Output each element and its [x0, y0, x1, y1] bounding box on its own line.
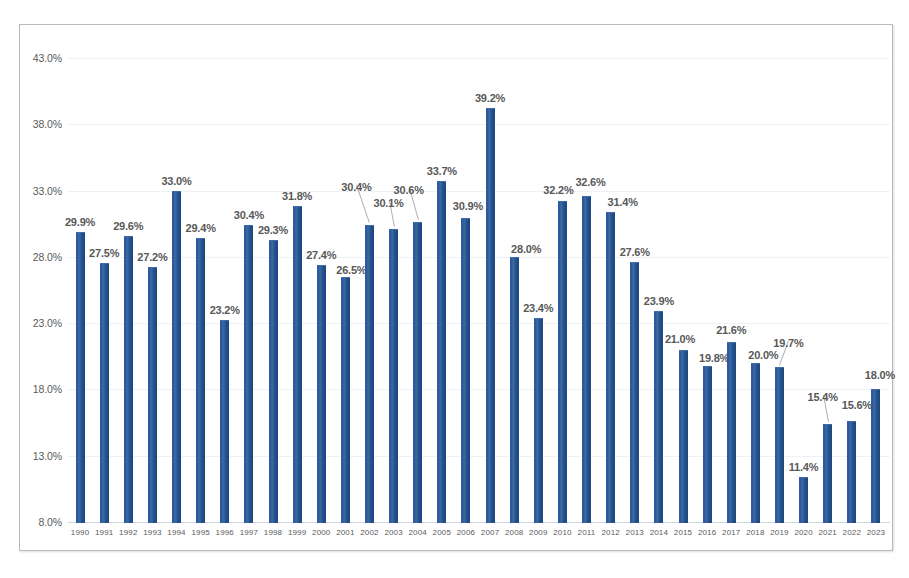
- x-axis-tick-label: 1998: [264, 528, 282, 537]
- bar[interactable]: [76, 232, 85, 523]
- bar-value-label: 19.8%: [699, 352, 729, 364]
- bar[interactable]: [654, 311, 663, 523]
- bar-value-label: 19.7%: [773, 337, 803, 349]
- y-axis-tick-label: 13.0%: [20, 450, 62, 462]
- bar[interactable]: [317, 265, 326, 523]
- gridline: [68, 456, 890, 457]
- x-axis-tick-label: 1993: [143, 528, 161, 537]
- x-axis-tick-label: 2018: [746, 528, 764, 537]
- x-axis-tick-label: 2014: [650, 528, 668, 537]
- bar[interactable]: [799, 477, 808, 523]
- bar[interactable]: [269, 240, 278, 523]
- bar-value-label: 30.1%: [373, 197, 403, 209]
- bar[interactable]: [775, 367, 784, 523]
- bar[interactable]: [823, 424, 832, 523]
- x-axis-tick-label: 2015: [674, 528, 692, 537]
- x-axis-tick-label: 2005: [433, 528, 451, 537]
- bar-value-label: 30.4%: [341, 181, 371, 193]
- bar-value-label: 33.0%: [161, 175, 191, 187]
- x-axis-tick-label: 2000: [312, 528, 330, 537]
- x-axis-tick-label: 1991: [95, 528, 113, 537]
- x-axis-tick-label: 2023: [867, 528, 885, 537]
- y-axis-tick-label: 38.0%: [20, 118, 62, 130]
- x-axis-tick-label: 2003: [384, 528, 402, 537]
- bar-value-label: 23.4%: [523, 302, 553, 314]
- gridline: [68, 257, 890, 258]
- bar[interactable]: [486, 108, 495, 523]
- bar[interactable]: [196, 238, 205, 523]
- bar[interactable]: [293, 206, 302, 523]
- bar[interactable]: [124, 236, 133, 523]
- bar[interactable]: [751, 363, 760, 523]
- gridline: [68, 389, 890, 390]
- gridline: [68, 58, 890, 59]
- x-axis-tick-label: 2020: [794, 528, 812, 537]
- x-axis-tick-label: 1995: [191, 528, 209, 537]
- bar-value-label: 21.0%: [665, 333, 695, 345]
- bar[interactable]: [148, 267, 157, 523]
- x-axis-tick-label: 2013: [626, 528, 644, 537]
- x-axis-tick-label: 2010: [553, 528, 571, 537]
- bar[interactable]: [172, 191, 181, 523]
- bar[interactable]: [558, 201, 567, 523]
- bar[interactable]: [220, 320, 229, 523]
- gridline: [68, 191, 890, 192]
- plot-area: 43.0%38.0%33.0%28.0%23.0%18.0%13.0%8.0%2…: [20, 25, 892, 550]
- bar-value-label: 31.4%: [608, 196, 638, 208]
- bar-value-label: 28.0%: [511, 243, 541, 255]
- bar-value-label: 29.3%: [258, 224, 288, 236]
- bar-value-label: 27.6%: [620, 246, 650, 258]
- bar[interactable]: [341, 277, 350, 523]
- bar-value-label: 39.2%: [475, 92, 505, 104]
- bar-value-label: 18.0%: [865, 369, 895, 381]
- bar-value-label: 27.4%: [306, 249, 336, 261]
- bar[interactable]: [461, 218, 470, 523]
- bar-value-label: 29.9%: [65, 216, 95, 228]
- x-axis-tick-label: 2006: [457, 528, 475, 537]
- bar-value-label: 23.2%: [210, 304, 240, 316]
- bar-value-label: 15.4%: [808, 391, 838, 403]
- bar[interactable]: [244, 225, 253, 523]
- gridline: [68, 124, 890, 125]
- x-axis-tick-label: 2022: [843, 528, 861, 537]
- bar[interactable]: [606, 212, 615, 523]
- bar-value-label: 31.8%: [282, 190, 312, 202]
- bar-value-label: 20.0%: [748, 349, 778, 361]
- bar[interactable]: [727, 342, 736, 523]
- y-axis-tick-label: 8.0%: [20, 516, 62, 528]
- bar[interactable]: [582, 196, 591, 523]
- bar-value-label: 15.6%: [842, 399, 872, 411]
- bar-value-label: 27.2%: [137, 251, 167, 263]
- bar-value-label: 23.9%: [644, 295, 674, 307]
- bar[interactable]: [630, 262, 639, 523]
- bar[interactable]: [389, 229, 398, 523]
- x-axis-tick-label: 2019: [770, 528, 788, 537]
- x-axis-tick-label: 2001: [336, 528, 354, 537]
- x-axis-tick-label: 2017: [722, 528, 740, 537]
- bar[interactable]: [510, 257, 519, 523]
- bar[interactable]: [679, 350, 688, 523]
- x-axis-tick-label: 2011: [578, 528, 596, 537]
- x-axis-tick-label: 1996: [216, 528, 234, 537]
- bar[interactable]: [437, 181, 446, 523]
- x-axis-tick-label: 2004: [409, 528, 427, 537]
- bar-value-label: 30.4%: [234, 209, 264, 221]
- bar[interactable]: [871, 389, 880, 523]
- bar[interactable]: [365, 225, 374, 523]
- bar[interactable]: [847, 421, 856, 523]
- x-axis-tick-label: 1994: [167, 528, 185, 537]
- gridline: [68, 522, 890, 523]
- bar[interactable]: [100, 263, 109, 523]
- bar-value-label: 26.5%: [336, 264, 366, 276]
- bar-value-label: 30.6%: [394, 184, 424, 196]
- bar-value-label: 30.9%: [453, 200, 483, 212]
- bar[interactable]: [413, 222, 422, 523]
- chart-footnote: [6, 566, 526, 577]
- bar[interactable]: [534, 318, 543, 523]
- x-axis-tick-label: 1992: [119, 528, 137, 537]
- y-axis-tick-label: 33.0%: [20, 185, 62, 197]
- x-axis-tick-label: 2007: [481, 528, 499, 537]
- bar[interactable]: [703, 366, 712, 523]
- bar-value-label: 32.6%: [575, 176, 605, 188]
- y-axis-tick-label: 43.0%: [20, 52, 62, 64]
